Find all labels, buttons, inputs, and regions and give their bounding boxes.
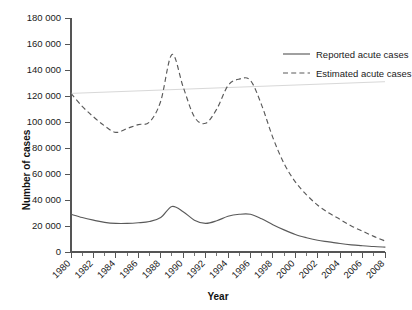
x-tick-label: 1988 (139, 258, 162, 281)
x-tick-label: 1982 (72, 258, 95, 281)
y-axis-title: Number of cases (21, 129, 32, 210)
x-tick-label: 1984 (95, 258, 118, 281)
series-line-reported-acute-cases (71, 206, 385, 247)
x-tick-label: 2000 (274, 258, 297, 281)
x-tick-label: 1994 (207, 258, 230, 281)
chart-legend: Reported acute cases Estimated acute cas… (283, 49, 412, 79)
y-tick-label: 0 (56, 246, 61, 257)
x-tick-label: 1996 (229, 258, 252, 281)
baseline-trend-line (71, 82, 385, 94)
y-tick-label: 160 000 (27, 38, 61, 49)
y-tick-label: 20 000 (32, 220, 61, 231)
series-line-estimated-acute-cases (71, 54, 385, 241)
x-axis-tick-labels: 1980198219841986198819901992199419961998… (50, 258, 387, 281)
x-tick-label: 1992 (184, 258, 207, 281)
x-tick-label: 1998 (252, 258, 275, 281)
y-tick-label: 80 000 (32, 142, 61, 153)
x-tick-label: 2004 (319, 258, 342, 281)
x-axis-tick-marks (71, 252, 385, 258)
y-tick-label: 100 000 (27, 116, 61, 127)
y-tick-label: 180 000 (27, 12, 61, 23)
x-tick-label: 1980 (50, 258, 73, 281)
legend-label-reported-acute-cases: Reported acute cases (316, 49, 409, 60)
line-chart: 180 000160 000140 000120 000100 00080 00… (0, 0, 412, 310)
x-axis-title: Year (207, 291, 228, 302)
y-tick-label: 60 000 (32, 168, 61, 179)
y-tick-label: 140 000 (27, 64, 61, 75)
x-tick-label: 1986 (117, 258, 140, 281)
x-tick-label: 2002 (296, 258, 319, 281)
x-tick-label: 2008 (364, 258, 387, 281)
y-tick-label: 40 000 (32, 194, 61, 205)
chart-container: 180 000160 000140 000120 000100 00080 00… (0, 0, 412, 310)
y-tick-label: 120 000 (27, 90, 61, 101)
x-tick-label: 1990 (162, 258, 185, 281)
x-tick-label: 2006 (341, 258, 364, 281)
y-axis-tick-marks (65, 18, 71, 252)
legend-label-estimated-acute-cases: Estimated acute cases (316, 68, 412, 79)
